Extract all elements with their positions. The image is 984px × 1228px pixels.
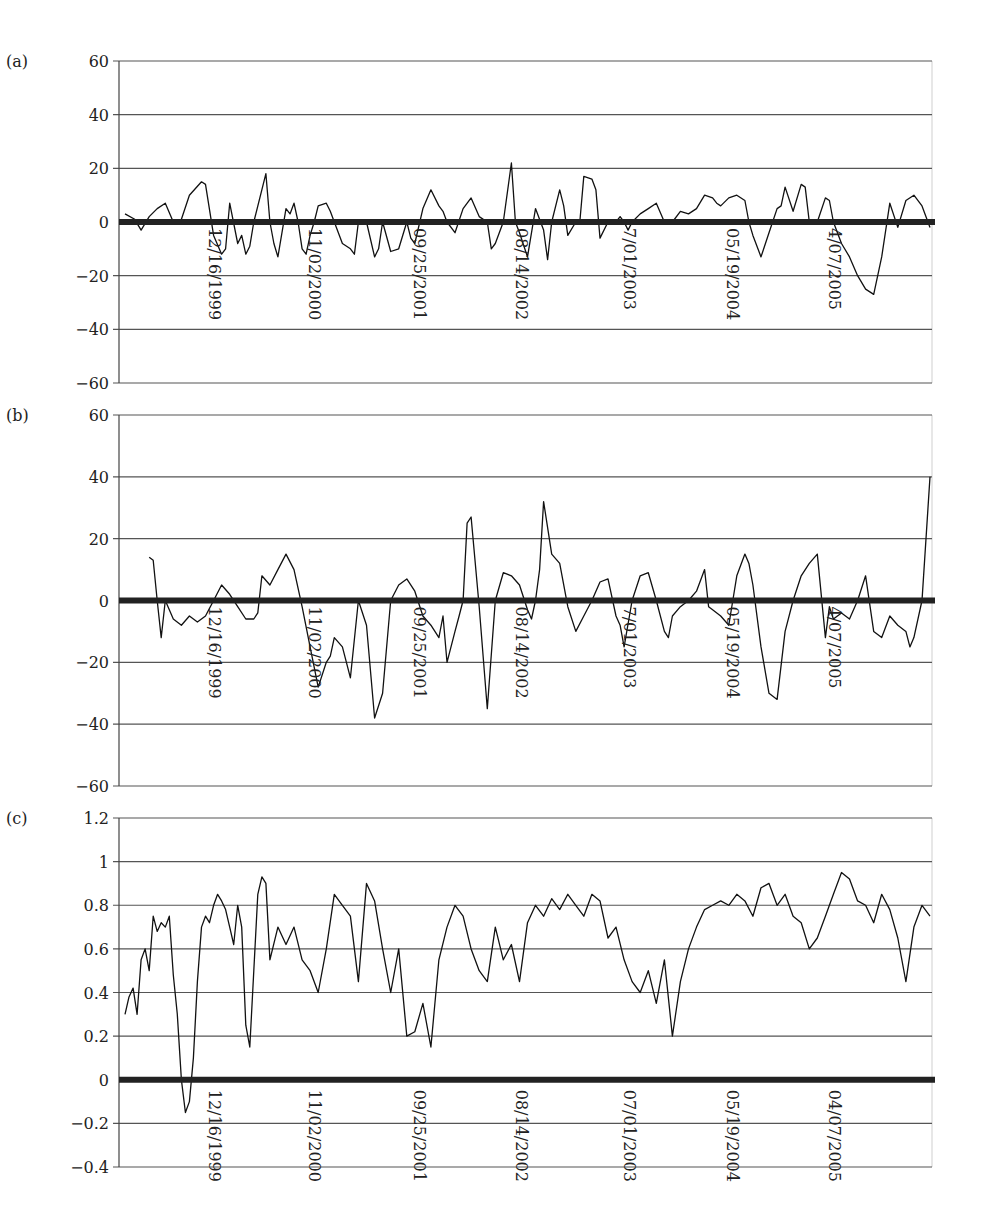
data-series-line [149,477,930,718]
x-tick-label: 07/01/2003 [620,1090,639,1182]
y-tick-label: 20 [89,159,109,178]
panel-a-chart: 6040200−20−40−60(a)12/16/199911/02/20000… [6,52,935,393]
panel-c-chart: 1.210.80.60.40.20−0.2−0.4(c)12/16/199911… [6,809,935,1182]
x-tick-label: 11/02/2000 [305,1090,324,1182]
y-tick-label: −0.4 [70,1158,109,1177]
x-tick-label: 11/02/2000 [305,228,324,320]
x-tick-label: 05/19/2004 [723,228,742,320]
x-tick-label: 05/19/2004 [723,1090,742,1182]
x-tick-label: 4/07/2005 [825,228,844,310]
y-tick-label: −60 [75,374,109,393]
x-tick-label: 09/25/2001 [410,1090,429,1182]
y-tick-label: 1.2 [84,809,109,828]
y-tick-label: 40 [89,106,109,125]
y-tick-label: 0 [99,1071,109,1090]
y-tick-label: −0.2 [70,1114,109,1133]
x-tick-label: 12/16/1999 [205,228,224,320]
panel-b-chart: 6040200−20−40−60(b)12/16/199911/02/20000… [6,406,935,796]
x-tick-label: 7/01/2003 [620,228,639,310]
figure: 6040200−20−40−60(a)12/16/199911/02/20000… [0,0,984,1228]
y-tick-label: 60 [89,52,109,71]
x-tick-label: 12/16/1999 [205,1090,224,1182]
x-tick-label: 08/14/2002 [512,607,531,699]
x-tick-label: 08/14/2002 [512,228,531,320]
y-tick-label: 0 [99,592,109,611]
y-tick-label: −60 [75,777,109,796]
x-tick-label: 4/07/2005 [825,607,844,689]
panel-label: (c) [6,809,27,828]
x-tick-label: 11/02/2000 [305,607,324,699]
x-tick-label: 12/16/1999 [205,607,224,699]
x-tick-label: 09/25/2001 [410,228,429,320]
x-tick-label: 04/07/2005 [825,1090,844,1182]
y-tick-label: 0.4 [84,984,109,1003]
x-tick-label: 08/14/2002 [512,1090,531,1182]
y-tick-label: 0.2 [84,1027,109,1046]
panel-label: (b) [6,406,29,425]
y-tick-label: −40 [75,320,109,339]
x-tick-label: 09/25/2001 [410,607,429,699]
y-tick-label: 20 [89,530,109,549]
x-tick-label: 7/01/2003 [620,607,639,689]
y-tick-label: 0.6 [84,940,109,959]
y-tick-label: 60 [89,406,109,425]
y-tick-label: 0 [99,213,109,232]
y-tick-label: −40 [75,715,109,734]
y-tick-label: −20 [75,653,109,672]
x-tick-label: 05/19/2004 [723,607,742,699]
y-tick-label: −20 [75,267,109,286]
panel-label: (a) [6,52,28,71]
y-tick-label: 1 [99,853,109,872]
y-tick-label: 40 [89,468,109,487]
y-tick-label: 0.8 [84,896,109,915]
